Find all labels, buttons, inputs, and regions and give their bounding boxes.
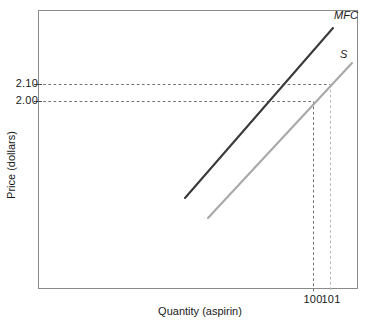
ytick-label-200: 2.00 [16,95,38,106]
chart-figure: 2.10 2.00 100 101 Quantity (aspirin) Pri… [0,0,372,323]
x-axis-title: Quantity (aspirin) [110,305,290,317]
plot-area [38,10,358,289]
y-axis-title: Price (dollars) [5,110,17,220]
mfc-curve-label: MFC [334,10,358,21]
xtick-label-101: 101 [318,294,344,305]
y-axis-title-wrap: Price (dollars) [0,110,22,220]
supply-curve-label: S [340,49,347,60]
ytick-label-210: 2.10 [16,78,38,89]
